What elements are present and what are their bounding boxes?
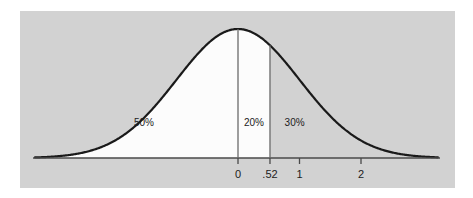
region-label-20-percent: 20% [244, 117, 264, 128]
axis-tick-label-052: .52 [262, 168, 277, 180]
region-label-50-percent: 50% [134, 117, 154, 128]
axis-tick-label-2: 2 [358, 168, 364, 180]
axis-tick-label-0: 0 [235, 168, 241, 180]
region-label-30-percent: 30% [285, 117, 305, 128]
shaded-area-left-of-mean [35, 29, 238, 158]
normal-curve-svg: 0 .52 1 2 50% 20% 30% [20, 11, 455, 188]
axis-tick-marks [238, 158, 361, 164]
normal-distribution-chart-panel: 0 .52 1 2 50% 20% 30% [20, 11, 455, 188]
figure-root: 0 .52 1 2 50% 20% 30% [0, 0, 473, 198]
axis-tick-label-1: 1 [296, 168, 302, 180]
shaded-area-mean-to-z [238, 29, 270, 158]
